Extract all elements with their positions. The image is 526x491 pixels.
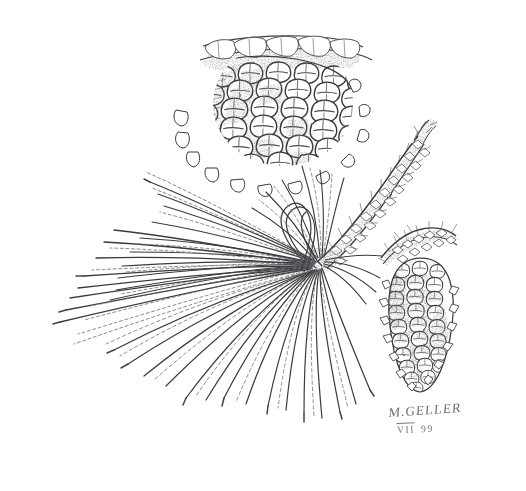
top-cone-cut-plane	[200, 36, 372, 60]
illustration-plate: M.GELLER VII99	[0, 0, 526, 491]
pine-illustration-svg	[0, 0, 526, 491]
